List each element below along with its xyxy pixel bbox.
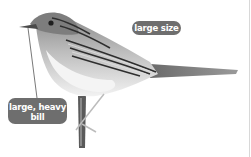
right-border-line <box>249 0 250 157</box>
bird-tail <box>150 64 238 78</box>
large-heavy-bill-label: large, heavy bill <box>8 98 67 124</box>
bill-leader-line <box>28 28 37 98</box>
bill-label-line-2: bill <box>8 112 67 122</box>
bird-illustration <box>0 0 251 157</box>
large-size-text: large size <box>134 23 178 33</box>
bird-bill <box>19 24 38 29</box>
large-size-label: large size <box>132 21 181 35</box>
bill-label-line-1: large, heavy <box>8 102 67 112</box>
bird-eye <box>48 20 53 25</box>
bird-diagram: large size large, heavy bill <box>0 0 251 157</box>
